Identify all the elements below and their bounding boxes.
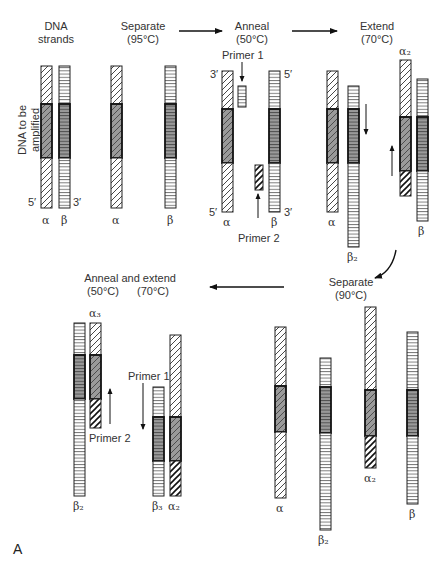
side-label-line: DNA to be [16, 100, 29, 160]
label-beta: β [418, 225, 424, 238]
anneal-temp: (50°C) [87, 285, 119, 298]
extend-temp: (70°C) [137, 285, 169, 298]
strand-alpha-extend [327, 71, 338, 212]
label-alpha2: α₂ [168, 500, 180, 513]
five-prime-label-anneal-bottom: 5′ [209, 206, 217, 218]
step-title-extend: Extend (70°C) [355, 20, 399, 46]
strand-alpha-sep2 [275, 327, 286, 498]
label-beta2: β₂ [347, 251, 358, 264]
strand-alpha2-anneal2 [170, 335, 181, 496]
step-title-dna-strands: DNA strands [33, 20, 79, 46]
strand-alpha2-extend [400, 60, 411, 196]
label-beta: β [167, 214, 173, 227]
step-title-line: strands [33, 33, 79, 46]
step-title-anneal-extend: Anneal and extend [80, 272, 180, 285]
primer1-label-bottom: Primer 1 [128, 370, 170, 383]
strand-beta-separated [165, 66, 176, 208]
step-title-line: (50°C) [232, 33, 272, 46]
step-title-anneal: Anneal (50°C) [232, 20, 272, 46]
three-prime-label-anneal-bottom: 3′ [284, 206, 292, 218]
strand-alpha-separated [111, 66, 122, 208]
primer2-label-top: Primer 2 [238, 232, 280, 245]
label-alpha: α [223, 216, 230, 229]
label-beta: β [409, 508, 415, 521]
strand-alpha-anneal [222, 71, 233, 212]
step-title-separate-95: Separate (95°C) [118, 20, 168, 46]
strand-beta3-anneal2 [153, 387, 164, 496]
step-title-line: Anneal [232, 20, 272, 33]
step-title-line: (95°C) [118, 33, 168, 46]
label-beta3: β₃ [152, 500, 163, 513]
strand-beta-extend [417, 79, 428, 221]
label-alpha: α [112, 214, 119, 227]
label-alpha: α [276, 502, 283, 515]
label-beta2: β₂ [318, 534, 329, 547]
strand-beta-original [59, 66, 70, 208]
five-prime-label: 5′ [28, 196, 36, 208]
strand-beta-sep2 [407, 332, 418, 504]
curved-arrow-to-separate [375, 250, 396, 278]
step-title-line: (70°C) [355, 33, 399, 46]
label-alpha2: α₂ [399, 45, 411, 58]
three-prime-label-anneal: 3′ [210, 68, 218, 80]
strand-beta2-sep2 [320, 358, 331, 530]
three-prime-label: 3′ [73, 196, 81, 208]
label-alpha2: α₂ [364, 472, 376, 485]
step-title-line: Separate [326, 276, 376, 289]
strand-alpha2-sep2 [365, 307, 376, 468]
strand-alpha3-anneal2 [90, 323, 101, 428]
strand-beta2-anneal2 [74, 323, 85, 496]
label-alpha: α [328, 216, 335, 229]
label-alpha3: α₃ [89, 307, 101, 320]
label-beta: β [61, 214, 67, 227]
primer2-anneal [255, 165, 263, 190]
strand-beta-anneal [269, 71, 280, 212]
strand-alpha-original [41, 66, 52, 208]
step-title-line: Separate [118, 20, 168, 33]
primer1-anneal [238, 86, 246, 107]
panel-label: A [13, 541, 22, 557]
step-title-line: DNA [33, 20, 79, 33]
step-title-line: Extend [355, 20, 399, 33]
strand-beta2-extend [348, 86, 359, 247]
step-title-separate-90: Separate (90°C) [326, 276, 376, 302]
label-beta: β [271, 216, 277, 229]
step-title-line: Anneal and extend [80, 272, 180, 285]
dna-to-be-amplified-label: DNA to be amplified [16, 100, 42, 160]
label-alpha: α [42, 214, 49, 227]
step-title-line: (90°C) [326, 289, 376, 302]
primer1-label-top: Primer 1 [222, 49, 264, 62]
side-label-line: amplified [29, 100, 42, 160]
label-beta2: β₂ [73, 500, 84, 513]
five-prime-label-anneal: 5′ [284, 68, 292, 80]
primer2-label-bottom: Primer 2 [89, 432, 131, 445]
